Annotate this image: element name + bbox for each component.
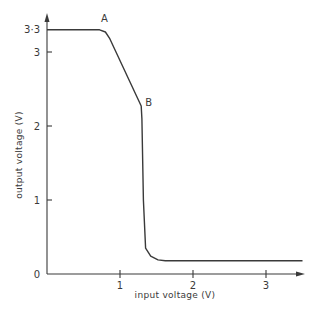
y-tick-label: 0 <box>34 269 40 280</box>
x-ticks: 123 <box>117 270 269 291</box>
x-tick-label: 1 <box>117 280 123 291</box>
transfer-curve <box>47 30 303 261</box>
y-tick-label: 1 <box>34 195 40 206</box>
x-axis-title: input voltage (V) <box>135 290 216 300</box>
x-axis-arrow-icon <box>296 272 305 277</box>
x-tick-label: 3 <box>263 280 269 291</box>
annotations: AB <box>101 13 152 108</box>
y-tick-label: 3·3 <box>24 24 40 35</box>
y-tick-label: 2 <box>34 121 40 132</box>
y-axis-arrow-icon <box>45 13 50 22</box>
point-label-b: B <box>145 97 152 108</box>
y-tick-label: 3 <box>34 47 40 58</box>
y-ticks: 01233·3 <box>24 24 52 279</box>
point-label-a: A <box>101 13 108 24</box>
y-axis-title: output voltage (V) <box>14 111 24 199</box>
chart: 123 01233·3 AB input voltage (V) output … <box>0 0 318 316</box>
